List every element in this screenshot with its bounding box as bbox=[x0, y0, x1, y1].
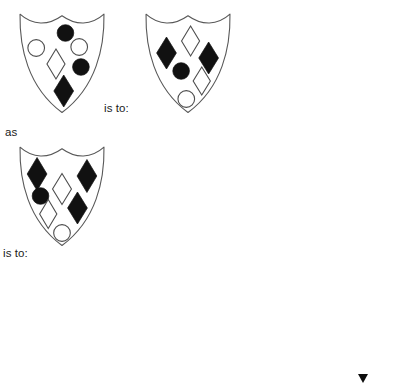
open-circle-icon bbox=[71, 39, 88, 56]
filled-circle-icon bbox=[73, 59, 90, 76]
open-circle-icon bbox=[28, 40, 45, 57]
label-as: as bbox=[5, 126, 17, 138]
prompt-shield-a bbox=[19, 13, 105, 113]
puzzle-canvas: is to: as is to: bbox=[0, 0, 406, 386]
prompt-shield-b bbox=[145, 13, 231, 113]
cursor-marker-icon bbox=[358, 374, 368, 383]
filled-circle-icon bbox=[173, 63, 190, 80]
prompt-shield-c bbox=[19, 146, 105, 246]
label-is-to-first: is to: bbox=[104, 102, 129, 114]
label-is-to-second: is to: bbox=[3, 247, 28, 259]
open-circle-icon bbox=[54, 225, 71, 242]
filled-circle-icon bbox=[57, 25, 74, 42]
open-circle-icon bbox=[178, 91, 195, 108]
